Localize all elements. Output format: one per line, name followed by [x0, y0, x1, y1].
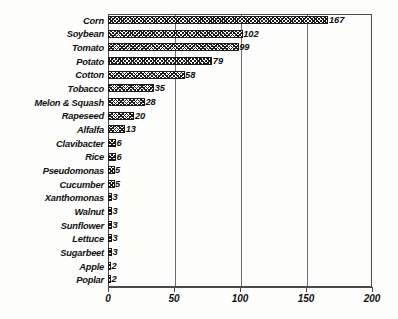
- category-label: Poplar: [0, 275, 104, 285]
- category-label: Alfalfa: [0, 125, 104, 135]
- category-label: Melon & Squash: [0, 98, 104, 108]
- bar-row: 3: [108, 191, 398, 205]
- x-axis-tick-label: 100: [232, 293, 249, 305]
- bar: [108, 180, 115, 188]
- category-label: Soybean: [0, 29, 104, 39]
- bar-value-label: 79: [213, 55, 223, 67]
- category-label: Cucumber: [0, 180, 104, 190]
- bar-row: 3: [108, 205, 398, 219]
- bar: [108, 98, 145, 106]
- bar: [108, 43, 239, 51]
- bar: [108, 30, 243, 38]
- bar-row: 35: [108, 82, 398, 96]
- bar: [108, 221, 112, 229]
- category-label: Rice: [0, 152, 104, 162]
- bar-value-label: 58: [185, 69, 195, 81]
- category-label: Cotton: [0, 70, 104, 80]
- bar-row: 13: [108, 123, 398, 137]
- bar: [108, 166, 115, 174]
- bar-value-label: 102: [243, 28, 259, 40]
- bar-value-label: 3: [112, 246, 117, 258]
- category-label: Tobacco: [0, 84, 104, 94]
- bar-value-label: 3: [112, 205, 117, 217]
- bar: [108, 57, 212, 65]
- x-axis-tick-label: 50: [168, 293, 179, 305]
- bar: [108, 193, 112, 201]
- bar-value-label: 2: [112, 260, 117, 272]
- bar-row: 5: [108, 164, 398, 178]
- bar-row: 79: [108, 55, 398, 69]
- bar-value-label: 3: [112, 191, 117, 203]
- bars-layer: 1671029979583528201366553333322: [108, 14, 398, 287]
- category-label: Pseudomonas: [0, 166, 104, 176]
- bar-row: 102: [108, 28, 398, 42]
- category-axis-labels: CornSoybeanTomatoPotatoCottonTobaccoMelo…: [0, 14, 104, 287]
- bar: [108, 125, 125, 133]
- bar: [108, 16, 328, 24]
- category-label: Clavibacter: [0, 139, 104, 149]
- bar-value-label: 28: [145, 96, 155, 108]
- category-label: Lettuce: [0, 234, 104, 244]
- category-label: Tomato: [0, 43, 104, 53]
- x-axis-tick: [240, 287, 241, 292]
- bar-value-label: 5: [115, 178, 120, 190]
- bar-row: 20: [108, 110, 398, 124]
- bar-value-label: 20: [135, 110, 145, 122]
- bar-row: 6: [108, 151, 398, 165]
- bar-value-label: 99: [239, 41, 249, 53]
- bar: [108, 112, 134, 120]
- bar-value-label: 6: [116, 151, 121, 163]
- category-label: Potato: [0, 57, 104, 67]
- x-axis-tick: [174, 287, 175, 292]
- bar-value-label: 13: [126, 123, 136, 135]
- bar-value-label: 3: [112, 219, 117, 231]
- bar: [108, 153, 116, 161]
- bar-value-label: 35: [155, 82, 165, 94]
- bar-row: 28: [108, 96, 398, 110]
- bar: [108, 248, 112, 256]
- category-label: Rapeseed: [0, 111, 104, 121]
- bar-row: 3: [108, 246, 398, 260]
- bar-row: 167: [108, 14, 398, 28]
- bar-chart: CornSoybeanTomatoPotatoCottonTobaccoMelo…: [0, 0, 398, 319]
- bar-row: 5: [108, 178, 398, 192]
- category-label: Corn: [0, 16, 104, 26]
- x-axis: 050100150200: [108, 287, 372, 288]
- category-label: Walnut: [0, 207, 104, 217]
- x-axis-tick: [108, 287, 109, 292]
- x-axis-tick: [306, 287, 307, 292]
- category-label: Xanthomonas: [0, 193, 104, 203]
- x-axis-tick-label: 200: [364, 293, 381, 305]
- bar: [108, 139, 116, 147]
- bar-value-label: 6: [116, 137, 121, 149]
- category-label: Sunflower: [0, 221, 104, 231]
- bar-row: 6: [108, 137, 398, 151]
- category-label: Sugarbeet: [0, 248, 104, 258]
- bar-row: 2: [108, 273, 398, 287]
- bar: [108, 234, 112, 242]
- bar-row: 3: [108, 219, 398, 233]
- bar-row: 58: [108, 69, 398, 83]
- x-axis-tick-label: 150: [298, 293, 315, 305]
- bar: [108, 207, 112, 215]
- category-label: Apple: [0, 262, 104, 272]
- bar-row: 2: [108, 260, 398, 274]
- bar-value-label: 167: [329, 14, 345, 26]
- x-axis-tick: [372, 287, 373, 292]
- bar: [108, 84, 154, 92]
- bar-row: 99: [108, 41, 398, 55]
- bar-value-label: 2: [112, 273, 117, 285]
- bar-value-label: 3: [112, 232, 117, 244]
- bar-value-label: 5: [115, 164, 120, 176]
- x-axis-tick-label: 0: [105, 293, 111, 305]
- bar: [108, 71, 185, 79]
- bar-row: 3: [108, 232, 398, 246]
